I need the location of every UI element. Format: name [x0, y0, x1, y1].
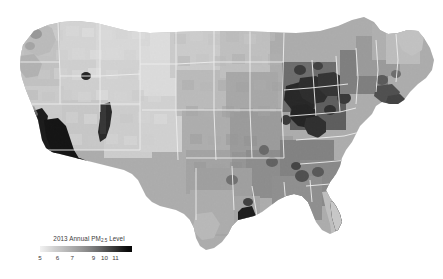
legend-title-prefix: 2013 Annual PM [53, 235, 101, 242]
colorbar-tick-6: 6 [56, 253, 59, 262]
colorbar-gradient [40, 246, 132, 252]
colorbar-tick-labels: 56791011 [40, 253, 132, 262]
colorbar-tick-11: 11 [112, 253, 118, 262]
legend: 2013 Annual PM2.5 Level 56791011 [38, 234, 138, 262]
colorbar-tick-9: 9 [92, 253, 95, 262]
legend-title-suffix: Level [107, 235, 124, 242]
colorbar-wrap [40, 246, 132, 252]
colorbar-tick-5: 5 [38, 253, 41, 262]
legend-title: 2013 Annual PM2.5 Level [40, 234, 138, 245]
pm25-choropleth-figure: 2013 Annual PM2.5 Level 56791011 [0, 0, 443, 279]
colorbar-tick-7: 7 [70, 253, 73, 262]
colorbar-tick-10: 10 [101, 253, 108, 262]
